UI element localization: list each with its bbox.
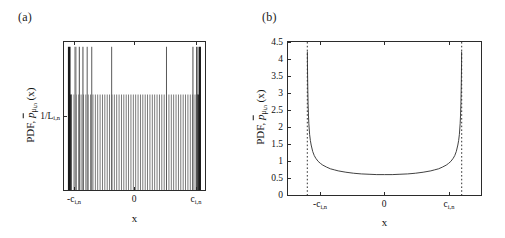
- pdf-curve-path: [307, 52, 461, 175]
- impulse-line: [90, 95, 91, 190]
- impulse-line: [166, 47, 167, 190]
- impulse-line: [173, 95, 174, 190]
- panel-a-impulse-plot: [64, 42, 205, 190]
- impulse-line: [104, 95, 105, 190]
- impulse-line: [97, 95, 98, 190]
- impulse-line: [135, 95, 136, 190]
- panel-b-ytick-mark: [287, 76, 291, 77]
- impulse-line: [91, 47, 92, 190]
- impulse-line: [102, 95, 103, 190]
- impulse-line: [149, 95, 150, 190]
- impulse-line: [199, 47, 201, 190]
- impulse-line: [88, 95, 89, 190]
- impulse-line: [187, 95, 188, 190]
- panel-a-x-axis-title: x: [63, 212, 206, 224]
- panel-b-ytick-mark: [287, 178, 291, 179]
- impulse-line: [161, 95, 162, 190]
- panel-b-xtick-label-left: -ci,n: [313, 199, 327, 210]
- impulse-line: [180, 95, 181, 190]
- panel-a-y-axis-title: PDF, pμi,n (x): [24, 40, 39, 190]
- impulse-line: [164, 95, 165, 190]
- impulse-line: [100, 95, 101, 190]
- impulse-line: [176, 95, 177, 190]
- impulse-line: [95, 95, 96, 190]
- figure-root: (a) 1/Li,n -ci,n 0 ci,n x PDF, pμi,n (x)…: [0, 0, 505, 238]
- impulse-line: [123, 95, 124, 190]
- panel-b-ytick-mark: [287, 195, 291, 196]
- impulse-line: [195, 95, 196, 190]
- panel-a-label: (a): [18, 10, 32, 25]
- impulse-line: [138, 95, 139, 190]
- impulse-line: [93, 95, 94, 190]
- impulse-line: [171, 95, 172, 190]
- panel-a-xtick-label-right: ci,n: [191, 194, 202, 205]
- panel-b-ytick-mark: [287, 110, 291, 111]
- impulse-line: [126, 95, 127, 190]
- panel-a-xtick-mark-left: [74, 187, 75, 191]
- impulse-line: [111, 47, 112, 190]
- impulse-line: [82, 47, 83, 190]
- panel-b-ytick-mark: [287, 144, 291, 145]
- panel-b-ytick-mark: [287, 127, 291, 128]
- panel-a-xtick-mark-left-top: [74, 41, 75, 45]
- impulse-line: [114, 95, 115, 190]
- panel-b-xtick-label-right: ci,n: [444, 199, 455, 210]
- impulse-line: [74, 95, 75, 190]
- panel-b-pdf-curve: [288, 42, 481, 195]
- impulse-line: [147, 95, 148, 190]
- impulse-line: [178, 95, 179, 190]
- impulse-line: [140, 95, 141, 190]
- panel-a-plot-area: [63, 41, 206, 191]
- panel-b-xtick-mark-right: [449, 192, 450, 196]
- impulse-line: [81, 95, 82, 190]
- impulse-line: [157, 95, 158, 190]
- panel-a-ytick-mark: [63, 116, 67, 117]
- impulse-line: [145, 95, 146, 190]
- panel-b-plot-area: [287, 41, 482, 196]
- impulse-line: [168, 95, 169, 190]
- panel-a-xtick-mark-right-top: [196, 41, 197, 45]
- impulse-line: [119, 95, 120, 190]
- impulse-line: [133, 95, 134, 190]
- panel-b-ytick-mark: [287, 93, 291, 94]
- panel-b-ytick-mark: [287, 42, 291, 43]
- impulse-line: [142, 95, 143, 190]
- impulse-line: [121, 95, 122, 190]
- panel-a-xtick-label-center: 0: [132, 194, 137, 204]
- panel-a-xtick-mark-center: [134, 187, 135, 191]
- impulse-line: [116, 95, 117, 190]
- panel-b-ytick-mark: [287, 161, 291, 162]
- impulse-line: [130, 95, 131, 190]
- impulse-line: [68, 47, 71, 190]
- impulse-line: [183, 95, 184, 190]
- panel-b-xtick-mark-center: [384, 192, 385, 196]
- impulse-line: [74, 47, 76, 190]
- impulse-line: [196, 47, 197, 190]
- panel-a-xtick-mark-center-top: [134, 41, 135, 45]
- impulse-line: [85, 95, 86, 190]
- panel-b-xtick-mark-left-top: [320, 41, 321, 45]
- panel-b-x-axis-title: x: [287, 216, 482, 228]
- impulse-line: [192, 47, 193, 190]
- impulse-line: [79, 47, 80, 190]
- impulse-line: [159, 95, 160, 190]
- impulse-line: [87, 47, 88, 190]
- panel-b-xtick-mark-right-top: [449, 41, 450, 45]
- panel-b-xtick-mark-left: [320, 192, 321, 196]
- panel-b-xtick-label-center: 0: [382, 199, 387, 209]
- panel-b-y-axis-title: PDF, pμi,n (x): [254, 42, 269, 192]
- panel-b-label: (b): [262, 10, 277, 25]
- impulse-line: [185, 95, 186, 190]
- impulse-line: [152, 95, 153, 190]
- panel-b-xtick-mark-center-top: [384, 41, 385, 45]
- impulse-line: [190, 95, 191, 190]
- panel-a-xtick-label-left: -ci,n: [67, 194, 81, 205]
- impulse-line: [109, 95, 110, 190]
- impulse-line: [128, 95, 129, 190]
- impulse-line: [107, 95, 108, 190]
- panel-b-ytick-mark: [287, 59, 291, 60]
- impulse-line: [154, 95, 155, 190]
- panel-a-xtick-mark-right: [196, 187, 197, 191]
